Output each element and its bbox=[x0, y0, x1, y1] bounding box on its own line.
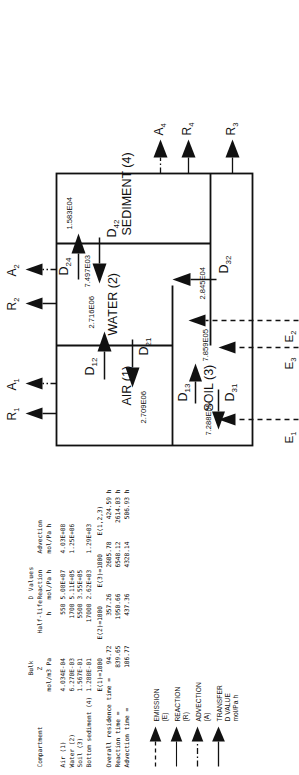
reaction-label-R1: R1 bbox=[5, 407, 21, 420]
residence-value: 6548.12 bbox=[113, 541, 122, 587]
header-halflife: Half-life bbox=[36, 599, 44, 633]
reaction-arrow-R3 bbox=[226, 139, 240, 173]
row-reaction: 5.11E+05 bbox=[67, 569, 75, 599]
advection-label-A4: A4 bbox=[152, 123, 168, 135]
reaction-arrow-icon bbox=[170, 723, 184, 767]
residence-time-block: E(1)=1000 E(2)=1000 E(3)=1000 E(1,2,3) O… bbox=[96, 752, 280, 767]
header-z-units: mol/m3 Pa bbox=[45, 657, 53, 691]
row-halflife: 5500 bbox=[76, 603, 84, 627]
diagram-svg: AIR (1) WATER (2) SOIL (3) SEDIMENT (4) … bbox=[21, 0, 280, 475]
row-reaction: 3.55E+05 bbox=[76, 569, 84, 599]
advection-arrow-A2 bbox=[26, 263, 57, 275]
transfer-value-D21: 2.709E06 bbox=[139, 390, 148, 423]
figure-canvas: D Values Compartment Bulk Z mol/m3 Pa Ha… bbox=[21, 0, 280, 775]
residence-value: 2605.78 bbox=[105, 541, 114, 587]
transfer-label-D12: D12 bbox=[83, 357, 100, 375]
advection-label-A2: A2 bbox=[5, 264, 21, 276]
row-compartment: Soil (3) bbox=[76, 737, 84, 767]
residence-value: 2614.03 h bbox=[113, 489, 122, 539]
reaction-arrow-R1 bbox=[26, 407, 57, 419]
table-dvalues-title: D Values bbox=[27, 566, 35, 599]
transfer-label-D24: D24 bbox=[57, 257, 74, 275]
residence-row-label: Advection time = bbox=[122, 707, 131, 767]
header-advection-units: mol/Pa h bbox=[45, 523, 53, 553]
header-compartment: Compartment bbox=[36, 726, 44, 767]
transfer-label-D21: D21 bbox=[137, 337, 154, 355]
emission-arrow-icon bbox=[149, 723, 163, 767]
residence-value: 424.59 h bbox=[105, 489, 114, 539]
transfer-value-D32: 2.845E04 bbox=[198, 266, 207, 299]
transfer-label-D31: D31 bbox=[223, 383, 240, 401]
advection-arrow-A1 bbox=[26, 377, 57, 389]
legend-label: TRANSFER D VALUE mol/Pa h bbox=[216, 685, 240, 721]
residence-row-label: Reaction time = bbox=[113, 711, 122, 767]
transfer-value-D12: 2.716E06 bbox=[87, 295, 96, 328]
header-reaction: Reaction bbox=[36, 569, 44, 599]
residence-value: 357.26 bbox=[105, 593, 114, 639]
emission-arrow-E3 bbox=[219, 341, 280, 353]
residence-col-header: E(2)=1000 bbox=[96, 605, 105, 639]
row-compartment: Bottom sediment (4) bbox=[84, 696, 92, 767]
transfer-value-D31: 7.288E05 bbox=[204, 402, 213, 435]
row-compartment: Air (1) bbox=[59, 741, 67, 767]
row-reaction: 5.08E+07 bbox=[59, 569, 67, 599]
reaction-label-R3: R3 bbox=[224, 122, 240, 135]
residence-col-header: E(3)=1000 bbox=[96, 553, 105, 587]
compartment-label-water: WATER (2) bbox=[106, 273, 120, 336]
advection-arrow-A4 bbox=[154, 139, 168, 173]
reaction-arrow-R4 bbox=[182, 139, 196, 173]
emission-arrow-E2 bbox=[189, 314, 280, 326]
row-halflife: 1700 bbox=[67, 603, 75, 627]
residence-value: 106.77 bbox=[122, 645, 131, 691]
row-advection: 1.25E+06 bbox=[67, 523, 75, 553]
residence-col-header: E(1)=1000 bbox=[96, 657, 105, 691]
row-advection: 1.29E+03 bbox=[84, 523, 92, 553]
header-z: Z bbox=[36, 666, 44, 670]
advection-arrow-icon bbox=[191, 723, 205, 767]
reaction-label-R2: R2 bbox=[5, 297, 21, 310]
residence-value: 839.65 bbox=[113, 645, 122, 691]
row-bulk-z: 1.288E-01 bbox=[84, 657, 92, 691]
transfer-value-D42: 7.497E03 bbox=[83, 254, 92, 287]
transfer-label-D13: D13 bbox=[176, 383, 193, 401]
reaction-label-R4: R4 bbox=[180, 122, 196, 135]
row-reaction: 2.62E+03 bbox=[84, 569, 92, 599]
residence-value: 94.72 bbox=[105, 645, 114, 691]
reaction-arrow-R2 bbox=[26, 297, 57, 309]
residence-value: 1950.66 bbox=[113, 593, 122, 639]
residence-value: 506.93 h bbox=[122, 489, 131, 539]
residence-value: 4328.14 bbox=[122, 541, 131, 587]
residence-value: 437.36 bbox=[122, 593, 131, 639]
emission-arrow-E1 bbox=[219, 413, 280, 425]
transfer-value-D13: 7.859E05 bbox=[201, 328, 210, 361]
legend-label: REACTION (R) bbox=[174, 686, 190, 721]
transfer-arrow-icon bbox=[212, 723, 226, 767]
mass-balance-diagram: AIR (1) WATER (2) SOIL (3) SEDIMENT (4) … bbox=[21, 0, 280, 475]
legend-label: ADVECTION (A) bbox=[195, 682, 211, 721]
advection-label-A1: A1 bbox=[5, 378, 21, 390]
transfer-value-D24: 1.583E04 bbox=[65, 196, 74, 229]
legend-label: EMISSION (E) bbox=[153, 688, 169, 721]
row-halflife: 550 bbox=[59, 603, 67, 627]
header-halflife-units: h bbox=[45, 611, 53, 615]
row-bulk-z: 4.034E-04 bbox=[59, 657, 67, 691]
row-advection: 4.03E+08 bbox=[59, 523, 67, 553]
row-compartment: Water (2) bbox=[67, 733, 75, 767]
header-bulk: Bulk bbox=[27, 660, 35, 675]
row-bulk-z: 6.270E-03 bbox=[67, 657, 75, 691]
transfer-label-D32: D32 bbox=[217, 255, 234, 273]
row-bulk-z: 1.567E-01 bbox=[76, 657, 84, 691]
transfer-arrow-D12 bbox=[98, 331, 112, 379]
transfer-label-D42: D42 bbox=[105, 219, 122, 237]
header-reaction-units: mol/Pa h bbox=[45, 569, 53, 599]
header-advection: Advection bbox=[36, 519, 44, 553]
row-halflife: 17000 bbox=[84, 603, 92, 627]
compartment-label-sediment: SEDIMENT (4) bbox=[120, 152, 134, 235]
residence-col-header: E(1,2,3) bbox=[96, 505, 105, 535]
